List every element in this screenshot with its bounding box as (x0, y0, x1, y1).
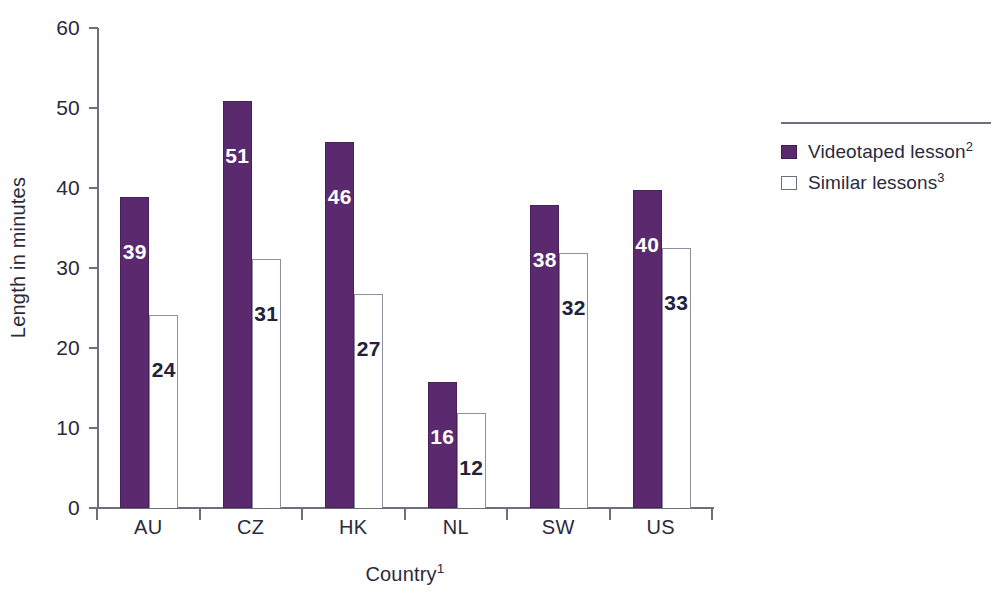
y-tick-50: 50 (89, 107, 98, 109)
x-axis-title-superscript: 1 (437, 561, 445, 576)
y-tick-label-40: 40 (56, 176, 80, 200)
x-category-label-nl: NL (405, 516, 508, 539)
legend-label-similar-lessons: Similar lessons3 (808, 172, 945, 194)
bar-value-nl-similar: 12 (458, 456, 485, 480)
bar-group-sw: 3832 (530, 28, 588, 508)
legend-item-videotaped-lesson[interactable]: Videotaped lesson2 (781, 141, 993, 163)
bar-value-nl-videotaped: 16 (429, 425, 456, 449)
y-tick-label-30: 30 (56, 256, 80, 280)
bar-value-cz-similar: 31 (253, 302, 280, 326)
bar-group-nl: 1612 (428, 28, 486, 508)
bar-cz-videotaped[interactable]: 51 (223, 101, 252, 508)
bar-group-hk: 4627 (325, 28, 383, 508)
bar-hk-videotaped[interactable]: 46 (325, 142, 354, 508)
legend-label-videotaped-lesson: Videotaped lesson2 (808, 141, 973, 163)
bar-value-hk-videotaped: 46 (326, 185, 353, 209)
bar-value-au-similar: 24 (150, 358, 177, 382)
y-tick-label-20: 20 (56, 336, 80, 360)
bar-value-us-similar: 33 (663, 291, 690, 315)
x-category-label-hk: HK (302, 516, 405, 539)
purple-filled-swatch-icon (781, 145, 797, 159)
bar-hk-similar[interactable]: 27 (354, 294, 383, 508)
x-category-label-sw: SW (507, 516, 610, 539)
y-tick-10: 10 (89, 427, 98, 429)
legend-superscript-similar: 3 (937, 170, 944, 185)
bar-nl-similar[interactable]: 12 (457, 413, 486, 508)
y-tick-label-0: 0 (68, 496, 80, 520)
bar-value-sw-videotaped: 38 (531, 248, 558, 272)
plot-area: 0102030405060 392451314627161238324033 (97, 28, 712, 508)
bar-nl-videotaped[interactable]: 16 (428, 382, 457, 508)
legend-superscript-videotaped: 2 (966, 139, 973, 154)
bar-sw-videotaped[interactable]: 38 (530, 205, 559, 508)
bar-sw-similar[interactable]: 32 (559, 253, 588, 508)
x-category-label-us: US (610, 516, 713, 539)
bar-group-us: 4033 (633, 28, 691, 508)
y-tick-20: 20 (89, 347, 98, 349)
bar-value-us-videotaped: 40 (634, 233, 661, 257)
bar-us-similar[interactable]: 33 (662, 248, 691, 508)
bar-us-videotaped[interactable]: 40 (633, 190, 662, 508)
legend-item-similar-lessons[interactable]: Similar lessons3 (781, 172, 993, 194)
y-tick-40: 40 (89, 187, 98, 189)
bar-au-similar[interactable]: 24 (149, 315, 178, 508)
x-category-label-cz: CZ (200, 516, 303, 539)
y-tick-60: 60 (89, 27, 98, 29)
bar-au-videotaped[interactable]: 39 (120, 197, 149, 508)
bar-chart: Length in minutes 0102030405060 39245131… (0, 0, 1000, 599)
bar-value-hk-similar: 27 (355, 337, 382, 361)
bar-value-sw-similar: 32 (560, 296, 587, 320)
legend: Videotaped lesson2 Similar lessons3 (781, 122, 993, 203)
bar-group-cz: 5131 (223, 28, 281, 508)
y-tick-label-60: 60 (56, 16, 80, 40)
bar-value-au-videotaped: 39 (121, 240, 148, 264)
x-axis-title: Country1 (0, 563, 810, 586)
y-tick-label-50: 50 (56, 96, 80, 120)
bar-cz-similar[interactable]: 31 (252, 259, 281, 508)
legend-divider (781, 122, 991, 124)
bar-value-cz-videotaped: 51 (224, 144, 251, 168)
y-axis-title: Length in minutes (7, 18, 30, 498)
x-axis-title-text: Country (365, 563, 436, 585)
y-tick-label-10: 10 (56, 416, 80, 440)
x-category-label-au: AU (97, 516, 200, 539)
bar-group-au: 3924 (120, 28, 178, 508)
white-outlined-swatch-icon (781, 176, 797, 190)
y-tick-30: 30 (89, 267, 98, 269)
